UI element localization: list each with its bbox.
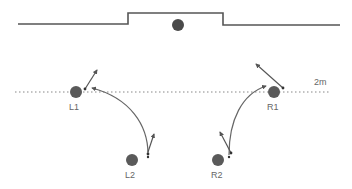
l1-run-arrow [85,70,97,89]
label-l1: L1 [69,103,79,112]
player-r2 [212,154,224,166]
distance-label: 2m [314,78,327,87]
diagram-canvas [0,0,352,189]
ball [172,19,184,31]
r1-run-arrow [256,64,283,88]
label-r1: R1 [267,103,279,112]
player-l2 [126,154,138,166]
l2-curved-run [92,88,148,154]
player-l1 [70,86,82,98]
label-l2: L2 [125,171,135,180]
label-r2: R2 [211,171,223,180]
r2-curved-run [229,86,266,155]
l2-run-arrow [148,134,154,152]
player-r1 [268,86,280,98]
